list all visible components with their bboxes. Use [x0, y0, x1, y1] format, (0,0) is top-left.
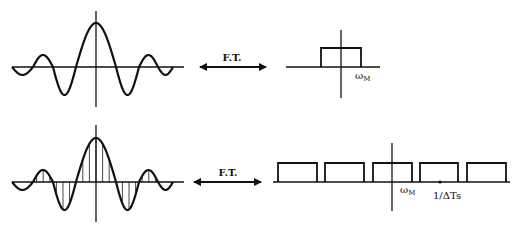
- omega-m-label: ωM: [355, 70, 370, 83]
- continuous-spectrum-plot: ωM: [286, 30, 380, 98]
- omega-m-label: ωM: [400, 184, 415, 197]
- continuous-signal-plot: [12, 11, 184, 107]
- periodic-spectrum-plot: ωM 1/ΔTs: [273, 143, 510, 211]
- sampled-signal-plot: [12, 125, 184, 222]
- spectrum-rectangle-1: [278, 163, 317, 182]
- spectrum-rectangle-4: [420, 163, 458, 182]
- spectrum-rectangle-2: [325, 163, 364, 182]
- fourier-sampling-diagram: F.T. ωM F.T. ωM 1/ΔTs: [0, 0, 522, 231]
- fourier-transform-arrow-bottom: F.T.: [194, 167, 261, 182]
- sinc-curve: [12, 23, 173, 95]
- fourier-transform-arrow-top: F.T.: [200, 52, 266, 67]
- spectrum-rectangle-5: [467, 163, 506, 182]
- ft-label: F.T.: [222, 52, 241, 63]
- sampling-frequency-tick: [438, 180, 441, 183]
- ft-label: F.T.: [218, 167, 237, 178]
- sampling-frequency-label: 1/ΔTs: [433, 190, 461, 201]
